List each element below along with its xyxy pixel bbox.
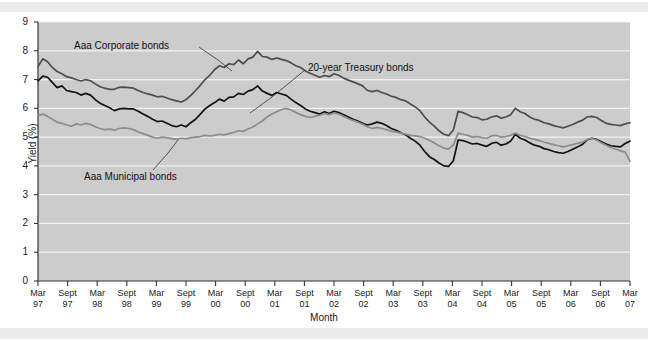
y-tick-label: 8 xyxy=(6,45,28,56)
y-tick-label: 9 xyxy=(6,16,28,27)
y-tick-label: 1 xyxy=(6,246,28,257)
plot-wrapper: Aaa Corporate bonds 20-year Treasury bon… xyxy=(0,0,648,342)
y-tick-label: 6 xyxy=(6,102,28,113)
annotation-aaa-municipal: Aaa Municipal bonds xyxy=(84,171,177,182)
figure-container: Aaa Corporate bonds 20-year Treasury bon… xyxy=(0,0,648,342)
x-axis-tick-marks xyxy=(38,281,630,286)
plot-background xyxy=(38,22,630,281)
y-tick-label: 0 xyxy=(6,275,28,286)
x-axis-title: Month xyxy=(0,312,648,323)
y-axis-title: Yield (%) xyxy=(27,104,38,184)
y-tick-label: 2 xyxy=(6,217,28,228)
y-tick-label: 5 xyxy=(6,131,28,142)
annotation-aaa-corporate: Aaa Corporate bonds xyxy=(74,40,169,51)
y-tick-label: 4 xyxy=(6,160,28,171)
x-tick-month: Mar xyxy=(608,288,648,299)
annotation-treasury-20yr: 20-year Treasury bonds xyxy=(308,62,414,73)
x-tick-label: Mar07 xyxy=(608,288,648,310)
y-tick-label: 3 xyxy=(6,189,28,200)
y-tick-label: 7 xyxy=(6,74,28,85)
x-tick-year: 07 xyxy=(608,299,648,310)
